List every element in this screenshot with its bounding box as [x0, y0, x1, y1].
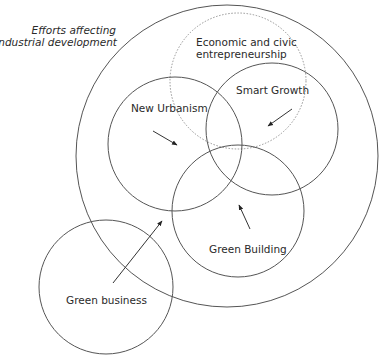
green-business-arrow-icon	[113, 221, 162, 283]
economic-civic-circle	[170, 13, 306, 149]
green-business-label: Green business	[66, 294, 147, 306]
new-urbanism-arrow-icon	[153, 131, 177, 145]
eco-industrial-venn-diagram: Efforts affecting eco-industrial develop…	[0, 0, 385, 360]
smart-growth-arrow-icon	[268, 109, 292, 126]
green-building-label: Green Building	[209, 243, 287, 255]
title-line-1: Efforts affecting	[32, 24, 117, 36]
new-urbanism-label: New Urbanism	[131, 102, 208, 114]
smart-growth-circle	[206, 63, 338, 195]
title-line-2: eco-industrial development	[0, 36, 118, 48]
green-building-circle	[172, 145, 304, 277]
economic-civic-label-line-1: Economic and civic	[196, 36, 297, 48]
smart-growth-label: Smart Growth	[236, 84, 309, 96]
economic-civic-label-line-2: entrepreneurship	[196, 48, 287, 60]
green-building-arrow-icon	[239, 205, 250, 229]
